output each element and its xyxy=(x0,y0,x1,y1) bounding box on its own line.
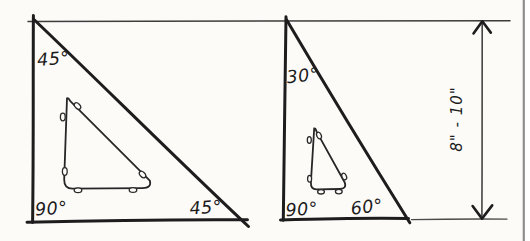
dimension-label: 8" - 10" xyxy=(448,86,466,151)
cutout-bump xyxy=(138,170,147,179)
sketch-canvas: 45° 90° 45° 30° 90° 60° 8" - 10" xyxy=(0,0,530,241)
cutout-bump xyxy=(318,190,325,194)
left-triangle-base-edge xyxy=(27,220,248,223)
left-angle-bottom-right-label: 45° xyxy=(189,196,223,218)
top-extension-line xyxy=(28,21,510,22)
dimension: 8" - 10" xyxy=(412,21,508,219)
right-angle-bottom-right-label: 60° xyxy=(350,195,385,219)
left-angle-bottom-left-label: 90° xyxy=(34,197,68,219)
cutout-bump xyxy=(316,131,323,139)
cutout-bump xyxy=(308,175,312,182)
cutout-bump xyxy=(62,168,67,176)
right-angle-bottom-left-label: 90° xyxy=(285,198,319,220)
right-angle-top-label: 30° xyxy=(286,64,320,87)
cutout-bump xyxy=(307,137,311,144)
left-angle-top-label: 45° xyxy=(36,48,70,70)
right-triangle-hypotenuse xyxy=(286,20,409,223)
cutout-bump xyxy=(60,113,65,121)
cutout-bump xyxy=(73,102,82,111)
right-triangle-cutout xyxy=(311,128,345,189)
right-triangle-vertical-edge xyxy=(283,17,286,221)
cutout-bump xyxy=(129,188,137,193)
sketch-paper: 45° 90° 45° 30° 90° 60° 8" - 10" xyxy=(0,0,530,241)
cutout-bump xyxy=(74,188,82,193)
cutout-bump xyxy=(335,189,342,193)
bottom-extension-line xyxy=(412,219,508,220)
cutout-bump xyxy=(341,172,348,180)
left-triangle-cutout xyxy=(64,98,150,189)
right-triangle: 30° 90° 60° xyxy=(281,17,410,223)
page-margin xyxy=(525,0,530,241)
left-triangle-vertical-edge xyxy=(33,16,34,223)
left-triangle: 45° 90° 45° xyxy=(27,16,249,227)
